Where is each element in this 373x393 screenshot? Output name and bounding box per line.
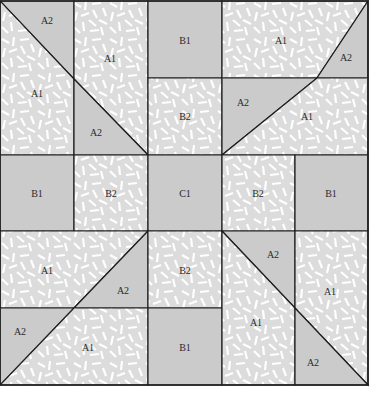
piece-label-tr-a1-bottom: A1 xyxy=(301,111,313,122)
piece-label-mid-b2-right: B2 xyxy=(252,188,264,199)
quilt-block-diagram: A2A1A1A2B1B2A1A2A2A1B1B2C1B2B1A1A2A2A1B2… xyxy=(0,0,373,393)
piece-label-mid-c1: C1 xyxy=(179,188,191,199)
piece-label-mid-b1-right: B1 xyxy=(325,188,337,199)
piece-label-bottom-b1: B1 xyxy=(179,342,191,353)
piece-label-bl-a1-bottom: A1 xyxy=(82,342,94,353)
piece-label-br-a2-top: A2 xyxy=(267,249,279,260)
piece-label-tl-a2-bottom: A2 xyxy=(90,127,102,138)
piece-label-tr-a2-top: A2 xyxy=(340,52,352,63)
piece-label-tr-a1-top: A1 xyxy=(275,35,287,46)
piece-label-tl-a1-left: A1 xyxy=(31,88,43,99)
piece-label-tl-a1-right: A1 xyxy=(104,53,116,64)
piece-label-tr-a2-bottom: A2 xyxy=(237,97,249,108)
piece-label-mid-b1-left: B1 xyxy=(31,188,43,199)
piece-label-top-b1: B1 xyxy=(179,35,191,46)
piece-label-top-b2: B2 xyxy=(179,111,191,122)
piece-label-mid-b2-left: B2 xyxy=(105,188,117,199)
piece-label-bl-a1-top: A1 xyxy=(41,265,53,276)
piece-label-tl-a2-top: A2 xyxy=(41,15,53,26)
piece-label-bottom-b2: B2 xyxy=(179,265,191,276)
piece-label-bl-a2-bottom: A2 xyxy=(14,326,26,337)
piece-label-br-a2-bottom: A2 xyxy=(307,357,319,368)
piece-label-br-a1-left: A1 xyxy=(250,317,262,328)
piece-label-bl-a2-top: A2 xyxy=(117,285,129,296)
piece-label-br-a1-right: A1 xyxy=(324,286,336,297)
